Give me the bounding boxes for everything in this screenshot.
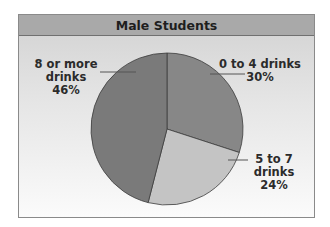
slice-label-5-to-7: 5 to 7 drinks 24% (244, 153, 304, 192)
pie-chart (0, 0, 330, 227)
slice-label-pct: 24% (244, 179, 304, 192)
slice-label-8-or-more: 8 or more drinks 46% (28, 58, 104, 97)
slice-label-0-to-4: 0 to 4 drinks 30% (205, 58, 315, 84)
slice-label-pct: 30% (205, 71, 315, 84)
slice-label-pct: 46% (28, 84, 104, 97)
